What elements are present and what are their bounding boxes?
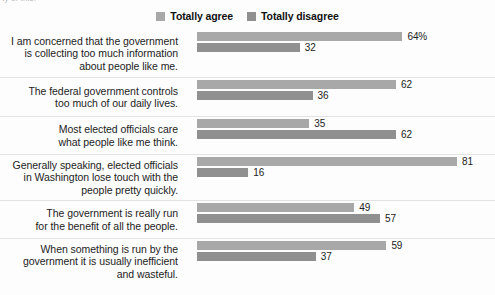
row-category-label: When something is run by the government … [0, 243, 186, 280]
chart-legend: Totally agree Totally disagree [0, 9, 495, 23]
row-category-label: The government is really run for the ben… [0, 207, 186, 232]
row-bars: 64%32 [186, 30, 495, 77]
row-bars: 3562 [186, 117, 495, 154]
bar-rect [197, 168, 248, 177]
bar-value-label: 81 [462, 156, 473, 167]
bar-disagree: 57 [197, 214, 495, 223]
bar-rect [197, 119, 309, 128]
bar-disagree: 32 [197, 43, 495, 52]
bar-rect [197, 203, 354, 212]
chart-row: Most elected officials care what people … [0, 117, 495, 155]
row-category-label: I am concerned that the government is co… [0, 35, 186, 72]
row-category-label: Most elected officials care what people … [0, 123, 186, 148]
row-category-label: The federal government controls too much… [0, 85, 186, 110]
row-category-label: Generally speaking, elected officials in… [0, 159, 186, 196]
bar-disagree: 62 [197, 130, 495, 139]
bar-disagree: 16 [197, 168, 495, 177]
chart-rows: I am concerned that the government is co… [0, 30, 495, 284]
legend-swatch-agree-icon [156, 12, 165, 21]
bar-value-label: 36 [318, 90, 329, 101]
legend-label-agree: Totally agree [170, 10, 233, 22]
bar-value-label: 49 [359, 202, 370, 213]
row-bars: 4957 [186, 201, 495, 238]
legend-item-totally-disagree: Totally disagree [247, 10, 339, 22]
row-bars: 5937 [186, 239, 495, 284]
chart-row: The federal government controls too much… [0, 78, 495, 117]
bar-value-label: 62 [401, 129, 412, 140]
chart-row: I am concerned that the government is co… [0, 30, 495, 78]
bar-value-label: 57 [385, 213, 396, 224]
legend-label-disagree: Totally disagree [261, 10, 339, 22]
bar-rect [197, 157, 457, 166]
bar-value-label: 35 [314, 118, 325, 129]
bar-agree: 35 [197, 119, 495, 128]
bar-agree: 81 [197, 157, 495, 166]
bar-disagree: 37 [197, 252, 495, 261]
clipped-header-text: ty of this. [2, 0, 36, 3]
bar-agree: 64% [197, 32, 495, 41]
chart-row: The government is really run for the ben… [0, 201, 495, 239]
bar-value-label: 37 [321, 251, 332, 262]
bar-rect [197, 252, 316, 261]
bar-chart: ty of this. Totally agree Totally disagr… [0, 0, 495, 295]
bar-rect [197, 43, 300, 52]
bar-agree: 59 [197, 241, 495, 250]
bar-value-label: 59 [391, 240, 402, 251]
bar-value-label: 64% [407, 31, 427, 42]
bar-rect [197, 130, 396, 139]
bar-value-label: 16 [253, 167, 264, 178]
chart-row: Generally speaking, elected officials in… [0, 155, 495, 201]
bar-rect [197, 91, 313, 100]
bar-rect [197, 241, 386, 250]
legend-swatch-disagree-icon [247, 12, 256, 21]
bar-agree: 62 [197, 80, 495, 89]
bar-value-label: 32 [305, 42, 316, 53]
row-bars: 8116 [186, 155, 495, 200]
legend-item-totally-agree: Totally agree [156, 10, 233, 22]
bar-rect [197, 214, 380, 223]
bar-value-label: 62 [401, 79, 412, 90]
row-bars: 6236 [186, 78, 495, 116]
bar-rect [197, 32, 402, 41]
bar-rect [197, 80, 396, 89]
bar-disagree: 36 [197, 91, 495, 100]
chart-row: When something is run by the government … [0, 239, 495, 284]
bar-agree: 49 [197, 203, 495, 212]
